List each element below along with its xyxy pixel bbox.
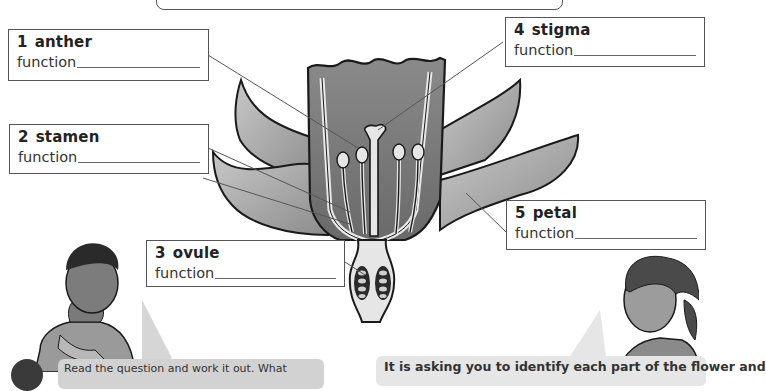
label-name: ovule — [173, 244, 220, 262]
function-label: function — [515, 223, 574, 243]
label-number: 3 — [155, 244, 166, 262]
function-label: function — [155, 263, 214, 283]
left-speech-text: Read the question and work it out. What — [64, 362, 287, 375]
label-name: petal — [533, 204, 577, 222]
label-ovule: 3ovule function — [146, 240, 345, 287]
label-stamen: 2stamen function — [9, 124, 209, 174]
label-name: stigma — [532, 21, 591, 39]
function-label: function — [17, 52, 76, 72]
label-name: stamen — [36, 128, 100, 146]
label-petal: 5petal function — [506, 200, 706, 250]
function-answer-line[interactable] — [78, 161, 200, 163]
label-number: 5 — [515, 204, 526, 222]
function-label: function — [514, 40, 573, 60]
girl-character — [620, 256, 699, 372]
label-number: 2 — [18, 128, 29, 146]
function-answer-line[interactable] — [575, 237, 697, 239]
function-answer-line[interactable] — [215, 277, 336, 279]
function-label: function — [18, 147, 77, 167]
label-number: 4 — [514, 21, 525, 39]
function-answer-line[interactable] — [77, 66, 200, 68]
function-answer-line[interactable] — [574, 54, 696, 56]
label-stigma: 4stigma function — [505, 17, 705, 67]
label-name: anther — [35, 33, 92, 51]
step-number-badge — [11, 359, 43, 391]
boy-character — [35, 243, 135, 372]
label-anther: 1anther function — [8, 29, 209, 81]
right-speech-text: It is asking you to identify each part o… — [384, 359, 766, 374]
label-number: 1 — [17, 33, 28, 51]
